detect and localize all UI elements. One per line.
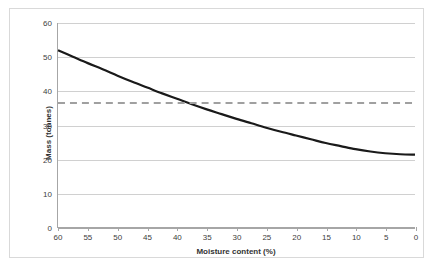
x-tick-20: [297, 227, 298, 231]
x-axis-title: Moisture content (%): [57, 247, 415, 256]
x-tick-25: [267, 227, 268, 231]
x-tick-label-55: 55: [83, 233, 92, 242]
y-tick-label-30: 30: [43, 121, 52, 130]
x-tick-0: [416, 227, 417, 231]
series-layer: [58, 23, 415, 227]
y-tick-label-0: 0: [48, 224, 52, 233]
x-tick-5: [386, 227, 387, 231]
x-tick-45: [148, 227, 149, 231]
chart-figure: Mass (tonnes) 0102030405060 605550454035…: [9, 8, 424, 258]
x-tick-35: [207, 227, 208, 231]
x-tick-label-10: 10: [352, 233, 361, 242]
y-tick-label-50: 50: [43, 53, 52, 62]
x-tick-10: [356, 227, 357, 231]
x-tick-label-25: 25: [262, 233, 271, 242]
x-tick-55: [88, 227, 89, 231]
x-tick-label-50: 50: [113, 233, 122, 242]
x-tick-label-15: 15: [322, 233, 331, 242]
y-axis-title: Mass (tonnes): [44, 106, 53, 160]
x-tick-label-45: 45: [143, 233, 152, 242]
y-tick-label-60: 60: [43, 19, 52, 28]
x-tick-label-40: 40: [173, 233, 182, 242]
x-tick-label-35: 35: [203, 233, 212, 242]
x-tick-50: [118, 227, 119, 231]
x-tick-label-5: 5: [384, 233, 388, 242]
y-tick-label-20: 20: [43, 155, 52, 164]
y-tick-label-10: 10: [43, 189, 52, 198]
plot-area: 0102030405060 605550454035302520151050: [57, 23, 415, 228]
x-tick-label-30: 30: [233, 233, 242, 242]
x-tick-label-20: 20: [292, 233, 301, 242]
x-tick-15: [327, 227, 328, 231]
x-tick-label-0: 0: [414, 233, 418, 242]
x-tick-label-60: 60: [54, 233, 63, 242]
x-tick-30: [237, 227, 238, 231]
y-tick-label-40: 40: [43, 87, 52, 96]
x-tick-60: [58, 227, 59, 231]
x-tick-40: [177, 227, 178, 231]
